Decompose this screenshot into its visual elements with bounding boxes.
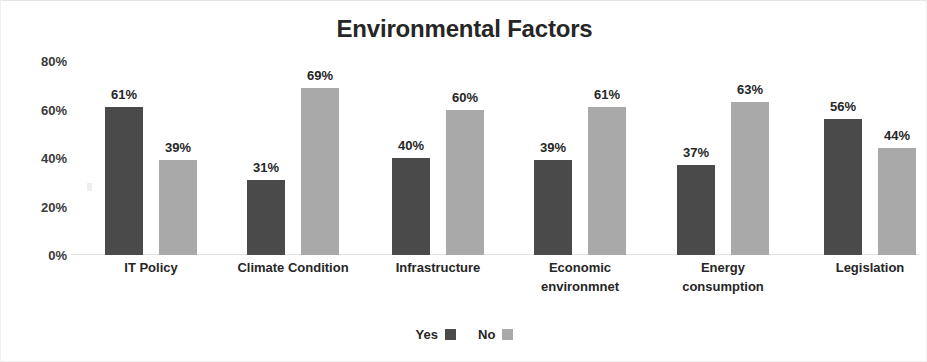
bar-value-label: 63% xyxy=(737,82,763,97)
bar-value-label: 37% xyxy=(683,145,709,160)
bar-no[interactable]: 60% xyxy=(446,110,484,256)
legend-label: No xyxy=(478,327,495,342)
legend-item[interactable]: No xyxy=(478,327,513,342)
y-axis-tick-label: 20% xyxy=(41,199,67,214)
x-axis-category-label: IT Policy xyxy=(85,259,217,278)
chart-title: Environmental Factors xyxy=(1,15,927,43)
bar-group: 61%39% xyxy=(97,61,205,255)
y-axis-tick-label: 0% xyxy=(48,248,67,263)
bar-value-label: 69% xyxy=(307,68,333,83)
x-axis-category-label: Economic environmnet xyxy=(514,259,646,297)
bar-value-label: 31% xyxy=(253,160,279,175)
bar-no[interactable]: 39% xyxy=(159,160,197,255)
bar-group: 40%60% xyxy=(384,61,492,255)
bar-no[interactable]: 69% xyxy=(301,88,339,255)
bar-value-label: 60% xyxy=(452,90,478,105)
legend-label: Yes xyxy=(416,327,438,342)
plot-area: 61%39%31%69%40%60%39%61%37%63%56%44% xyxy=(79,61,919,255)
legend-item[interactable]: Yes xyxy=(416,327,456,342)
y-axis-tick-label: 80% xyxy=(41,54,67,69)
y-axis-tick-label: 60% xyxy=(41,102,67,117)
bar-yes[interactable]: 40% xyxy=(392,158,430,255)
bar-group: 31%69% xyxy=(239,61,347,255)
bar-value-label: 44% xyxy=(884,128,910,143)
bar-yes[interactable]: 56% xyxy=(824,119,862,255)
y-axis: 0%20%40%60%80% xyxy=(1,61,73,255)
bar-value-label: 39% xyxy=(165,140,191,155)
x-axis-category-label: Legislation xyxy=(804,259,927,278)
bar-value-label: 39% xyxy=(540,140,566,155)
bar-value-label: 61% xyxy=(594,87,620,102)
chart-container: Environmental Factors 0%20%40%60%80% 61%… xyxy=(0,0,927,362)
bar-yes[interactable]: 39% xyxy=(534,160,572,255)
bar-value-label: 56% xyxy=(830,99,856,114)
bar-group: 56%44% xyxy=(816,61,924,255)
bar-value-label: 40% xyxy=(398,138,424,153)
bar-group: 37%63% xyxy=(669,61,777,255)
bar-yes[interactable]: 31% xyxy=(247,180,285,255)
bar-no[interactable]: 61% xyxy=(588,107,626,255)
bar-yes[interactable]: 61% xyxy=(105,107,143,255)
chart-legend: YesNo xyxy=(1,327,927,342)
x-axis-category-label: Infrastructure xyxy=(372,259,504,278)
bar-group: 39%61% xyxy=(526,61,634,255)
legend-color-swatch xyxy=(502,329,513,340)
bar-yes[interactable]: 37% xyxy=(677,165,715,255)
y-axis-tick-label: 40% xyxy=(41,151,67,166)
bar-no[interactable]: 63% xyxy=(731,102,769,255)
bar-value-label: 61% xyxy=(111,87,137,102)
x-axis-category-label: Climate Condition xyxy=(227,259,359,278)
legend-color-swatch xyxy=(445,329,456,340)
x-axis-category-label: Energy consumption xyxy=(657,259,789,297)
bar-no[interactable]: 44% xyxy=(878,148,916,255)
